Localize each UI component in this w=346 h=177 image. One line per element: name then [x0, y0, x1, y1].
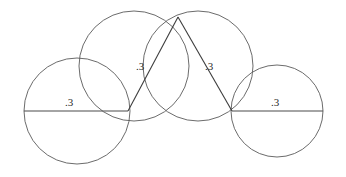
geometry-figure: .3 .3 .3 .3: [0, 0, 346, 177]
middle-right-circle: [143, 11, 253, 121]
label-left-radius: .3: [65, 97, 73, 108]
label-middle-right: .3: [205, 61, 213, 72]
label-right-radius: .3: [271, 97, 279, 108]
label-middle-left: .3: [136, 61, 144, 72]
circles-diagram-canvas: [0, 0, 346, 177]
